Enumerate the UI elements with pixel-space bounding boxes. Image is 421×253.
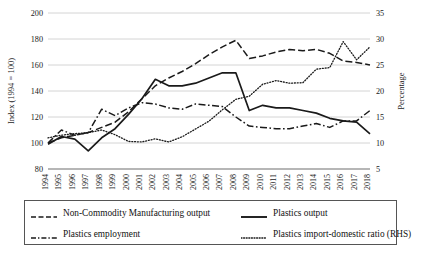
series-line-0 bbox=[48, 40, 370, 143]
x-axis-tick-label: 2002 bbox=[148, 174, 157, 190]
x-axis-tick-label: 2004 bbox=[175, 174, 184, 190]
series-line-3 bbox=[48, 42, 370, 142]
x-axis-tick-label: 2007 bbox=[215, 174, 224, 190]
x-axis-tick-label: 1996 bbox=[68, 174, 77, 190]
x-axis-tick-label: 2000 bbox=[122, 174, 131, 190]
legend-item-1: Plastics output bbox=[241, 208, 328, 218]
y-axis-tick-label: 80 bbox=[35, 165, 43, 174]
x-axis-tick-label: 2005 bbox=[189, 174, 198, 190]
y-axis-tick-label: 200 bbox=[31, 9, 43, 18]
y-axis-tick-label: 100 bbox=[31, 139, 43, 148]
x-axis-tick-label: 2009 bbox=[242, 174, 251, 190]
x-axis-tick-label: 2015 bbox=[323, 174, 332, 190]
x-axis-tick-label: 1995 bbox=[54, 174, 63, 190]
series-line-2 bbox=[48, 103, 370, 143]
y2-axis-tick-label: 15 bbox=[376, 113, 384, 122]
legend-item-0: Non-Commodity Manufacturing output bbox=[31, 208, 210, 218]
x-axis-tick-label: 1999 bbox=[108, 174, 117, 190]
x-axis-tick-label: 2017 bbox=[350, 174, 359, 190]
legend-swatch-solid bbox=[241, 208, 267, 218]
legend-item-2: Plastics employment bbox=[31, 229, 140, 239]
x-axis-tick-label: 2006 bbox=[202, 174, 211, 190]
legend-label-2: Plastics employment bbox=[63, 229, 140, 239]
legend-swatch-dotted bbox=[241, 229, 267, 239]
x-axis-tick-label: 2008 bbox=[229, 174, 238, 190]
y2-axis-title: Percentage bbox=[396, 72, 406, 110]
y-axis-tick-label: 120 bbox=[31, 113, 43, 122]
legend-label-1: Plastics output bbox=[273, 208, 328, 218]
y-axis-tick-label: 140 bbox=[31, 87, 43, 96]
x-axis-tick-label: 2014 bbox=[309, 174, 318, 190]
y-axis-title: Index (1994 = 100) bbox=[6, 58, 16, 124]
x-axis-tick-label: 2001 bbox=[135, 174, 144, 190]
x-axis-tick-label: 2018 bbox=[363, 174, 372, 190]
x-axis-tick-label: 2016 bbox=[336, 174, 345, 190]
y2-axis-tick-label: 20 bbox=[376, 87, 384, 96]
x-axis-tick-label: 2011 bbox=[269, 174, 278, 190]
x-axis-tick-label: 1998 bbox=[95, 174, 104, 190]
series-line-1 bbox=[48, 73, 370, 151]
y2-axis-tick-label: 35 bbox=[376, 9, 384, 18]
y2-axis-tick-label: 10 bbox=[376, 139, 384, 148]
y-axis-tick-label: 160 bbox=[31, 61, 43, 70]
legend-label-0: Non-Commodity Manufacturing output bbox=[63, 208, 210, 218]
chart-figure: 801001201401601802005101520253035Index (… bbox=[0, 0, 421, 253]
y2-axis-tick-label: 25 bbox=[376, 61, 384, 70]
x-axis-tick-label: 1994 bbox=[41, 174, 50, 190]
legend-label-3: Plastics import-domestic ratio (RHS) bbox=[273, 229, 411, 239]
y2-axis-tick-label: 5 bbox=[376, 165, 380, 174]
x-axis-tick-label: 2003 bbox=[162, 174, 171, 190]
y-axis-tick-label: 180 bbox=[31, 35, 43, 44]
legend-swatch-dashdot bbox=[31, 229, 57, 239]
legend-swatch-dashed bbox=[31, 208, 57, 218]
x-axis-tick-label: 1997 bbox=[81, 174, 90, 190]
x-axis-tick-label: 2013 bbox=[296, 174, 305, 190]
chart-plot-area: 801001201401601802005101520253035Index (… bbox=[0, 0, 421, 196]
legend-item-3: Plastics import-domestic ratio (RHS) bbox=[241, 229, 411, 239]
y2-axis-tick-label: 30 bbox=[376, 35, 384, 44]
x-axis-tick-label: 2010 bbox=[256, 174, 265, 190]
chart-legend: Non-Commodity Manufacturing output Plast… bbox=[24, 200, 397, 245]
x-axis-tick-label: 2012 bbox=[283, 174, 292, 190]
line-chart-svg: 801001201401601802005101520253035Index (… bbox=[0, 0, 421, 196]
